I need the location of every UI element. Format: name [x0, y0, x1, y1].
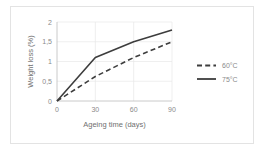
- y-axis-tick-labels: 2 1,5 1 0,5 0: [42, 19, 52, 105]
- x-axis-title: Ageing time (days): [83, 120, 146, 129]
- y-axis-title: Weight loss (%): [26, 35, 35, 88]
- x-tick-label-30: 30: [91, 106, 99, 113]
- y-tick-label-0: 0: [48, 98, 52, 105]
- legend-label-75c: 75°C: [222, 76, 238, 83]
- x-tick-label-0: 0: [55, 106, 59, 113]
- y-tick-label-1_5: 1,5: [42, 38, 52, 45]
- x-tick-label-90: 90: [168, 106, 176, 113]
- chart-figure: 2 1,5 1 0,5 0 0 30 60 90 Weight loss (%)…: [0, 0, 262, 152]
- y-tick-label-1: 1: [48, 58, 52, 65]
- y-tick-label-2: 2: [48, 19, 52, 26]
- x-tick-label-60: 60: [130, 106, 138, 113]
- x-axis-tick-labels: 0 30 60 90: [55, 106, 176, 113]
- horizontal-gridlines: [57, 22, 172, 81]
- chart-legend: 60°C 75°C: [197, 62, 238, 83]
- series-line-60c: [57, 42, 172, 101]
- line-chart: 2 1,5 1 0,5 0 0 30 60 90 Weight loss (%)…: [0, 0, 262, 152]
- legend-label-60c: 60°C: [222, 62, 238, 69]
- y-tick-label-0_5: 0,5: [42, 78, 52, 85]
